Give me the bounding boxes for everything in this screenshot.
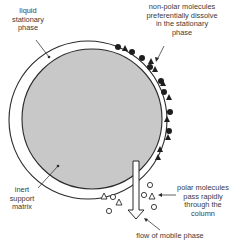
label-flow-of-mobile-phase: flow of mobile phase <box>128 232 212 241</box>
chromatography-diagram: liquid stationary phase non-polar molecu… <box>0 0 234 245</box>
label-inert-support-matrix: inert support matrix <box>4 186 40 212</box>
label-line: phase <box>6 24 50 33</box>
label-line: phase <box>135 29 229 38</box>
inert-support-particle <box>22 49 162 189</box>
label-polar-molecules: polar molecules pass rapidly through the… <box>172 184 234 218</box>
label-liquid-stationary-phase: liquid stationary phase <box>6 7 50 33</box>
label-non-polar-molecules: non-polar molecules preferentially disso… <box>135 3 229 37</box>
label-line: flow of mobile phase <box>128 232 212 241</box>
label-line: column <box>172 210 234 219</box>
label-line: matrix <box>4 203 40 212</box>
